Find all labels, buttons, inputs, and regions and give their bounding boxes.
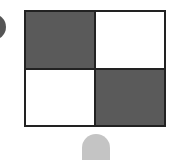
cell-bottom-left <box>26 70 96 125</box>
cell-bottom-right <box>96 70 164 125</box>
left-edge-shape <box>0 14 6 40</box>
cell-top-right <box>96 12 164 70</box>
bottom-tab-shape <box>82 134 110 160</box>
checkerboard-grid <box>24 10 166 127</box>
cell-top-left <box>26 12 96 70</box>
